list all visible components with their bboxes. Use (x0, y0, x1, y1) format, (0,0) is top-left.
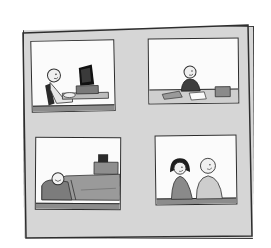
bedroom-scene-drawing (36, 138, 120, 210)
computer-scene-drawing (31, 40, 114, 112)
panel-sleeping: Person sleeping in bed with a clock on t… (35, 137, 122, 211)
clock-icon (98, 154, 108, 162)
panel-two-people: Two people, a girl and a boy, standing t… (155, 134, 238, 205)
panel-desk-worker: Person sitting at a table with papers an… (148, 38, 240, 105)
people-scene-drawing (156, 135, 237, 204)
panel-computer-user: Person sitting in chair typing at a comp… (30, 39, 115, 113)
book-icon (215, 87, 230, 97)
desk-scene-drawing (149, 39, 239, 104)
